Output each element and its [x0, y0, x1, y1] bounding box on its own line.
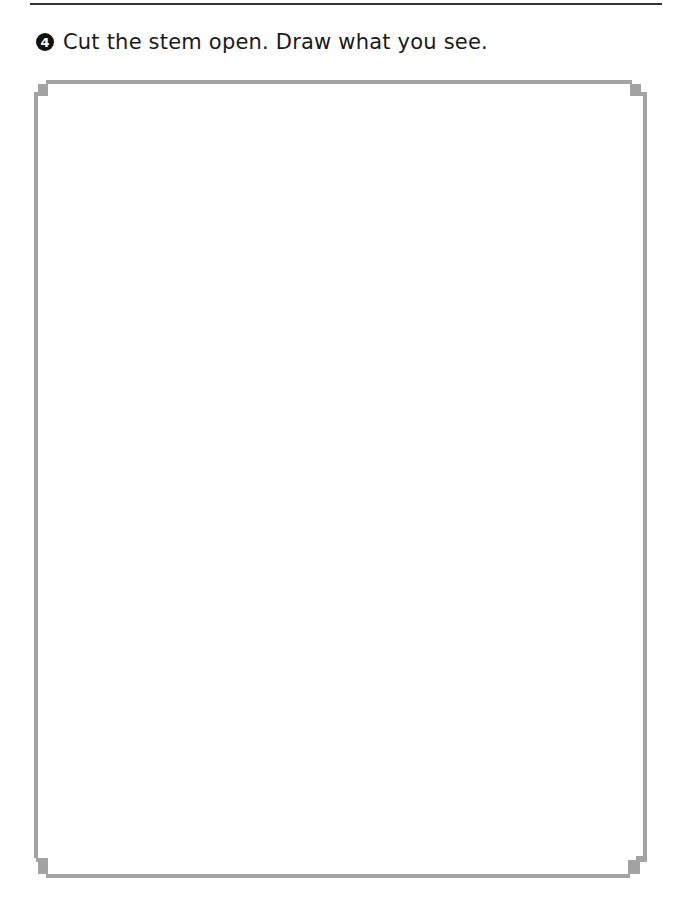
drawing-area[interactable] [40, 86, 642, 874]
question-number-badge: 4 [36, 33, 54, 51]
question-text: Cut the stem open. Draw what you see. [63, 30, 488, 54]
header-rule [30, 3, 662, 5]
question-prompt: 4 Cut the stem open. Draw what you see. [36, 28, 488, 56]
